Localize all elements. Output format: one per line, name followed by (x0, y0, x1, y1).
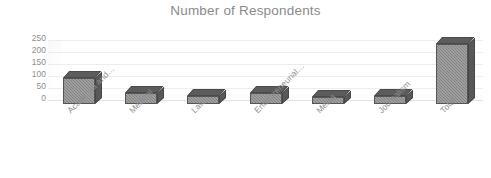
bar-top-face (187, 89, 225, 96)
bar-side-face (468, 38, 475, 104)
y-axis: 250 200 150 100 50 0 (14, 34, 46, 110)
gridline (48, 64, 483, 65)
y-axis-tick-label: 50 (37, 82, 46, 91)
y-axis-tick-label: 250 (32, 34, 46, 43)
chart-container: Number of Respondents 250 200 150 100 50… (0, 0, 491, 178)
gridline (48, 40, 483, 41)
y-axis-tick-label: 150 (32, 58, 46, 67)
bar-front-face (436, 44, 468, 104)
x-axis: Academia and…MedicalLawEntrepreneurial…M… (48, 104, 483, 178)
y-axis-tick-label: 0 (41, 94, 46, 103)
bar-7[interactable] (436, 44, 468, 104)
plot-back-wall (48, 40, 62, 104)
gridline (48, 76, 483, 77)
y-axis-tick-label: 100 (32, 70, 46, 79)
gridline (48, 52, 483, 53)
bar-top-face (436, 37, 474, 44)
chart-title: Number of Respondents (0, 3, 491, 18)
y-axis-tick-label: 200 (32, 46, 46, 55)
